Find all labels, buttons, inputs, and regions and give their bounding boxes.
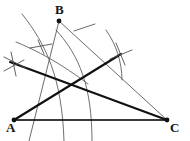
thin-lines [14,21,167,141]
construction-arcs [16,14,122,141]
bold-lines [10,54,167,120]
arc-crossing-left-stroke-1 [4,57,26,68]
arc-outer-centered-a [22,14,64,141]
ray-b-upper-right [74,24,95,31]
side-bc [59,21,167,120]
vertex-dot-c [165,118,170,123]
vertex-label-b: B [55,3,64,16]
vertex-dot-b [57,19,62,24]
bold-cevian-a-to-arc-crossing [14,54,121,120]
construction-drawing [0,0,190,141]
geometry-figure: A B C [0,0,190,141]
vertex-label-c: C [170,121,179,134]
vertex-label-a: A [6,121,15,134]
bold-line-left-crossing-to-c [10,62,167,120]
side-ab-extended [29,21,59,141]
